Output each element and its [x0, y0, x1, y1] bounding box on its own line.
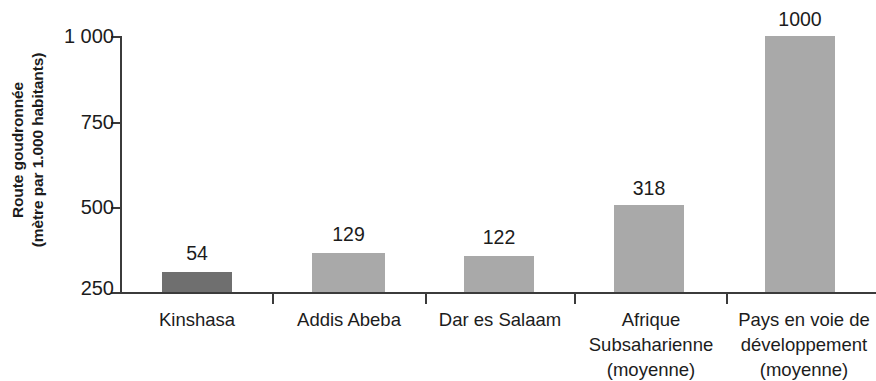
bar-chart-figure: Route goudronnée (mètre par 1.000 habita… [0, 0, 876, 381]
y-axis-title-line-2: (mètre par 1.000 habitants) [28, 53, 48, 248]
category-label-pays-en-voie-de-developpement-line-2: développement [729, 332, 876, 357]
bar-value-afrique-subsaharienne: 318 [614, 178, 684, 198]
x-tick-separator-2 [425, 293, 427, 304]
category-label-dar-es-salaam-line-1: Dar es Salaam [428, 307, 572, 332]
y-axis-title: Route goudronnée (mètre par 1.000 habita… [0, 0, 56, 300]
category-label-pays-en-voie-de-developpement-line-3: (moyenne) [729, 357, 876, 381]
category-label-afrique-subsaharienne-line-2: Subsaharienne [578, 332, 724, 357]
y-tick-label-250: 250 [81, 278, 114, 298]
y-tick-label-1000: 1 000 [64, 26, 114, 46]
y-axis-line [120, 36, 122, 294]
category-label-dar-es-salaam: Dar es Salaam [428, 307, 572, 332]
category-label-kinshasa-line-1: Kinshasa [127, 307, 267, 332]
plot-area: 1 000 750 500 250 54 129 122 318 1000 Ki… [120, 0, 876, 294]
category-label-pays-en-voie-de-developpement-line-1: Pays en voie de [729, 307, 876, 332]
category-label-afrique-subsaharienne: Afrique Subsaharienne (moyenne) [578, 307, 724, 381]
y-axis-title-line-1: Route goudronnée [8, 53, 28, 248]
x-tick-separator-1 [272, 293, 274, 304]
bar-kinshasa [162, 272, 232, 292]
category-label-addis-abeba: Addis Abeba [278, 307, 420, 332]
category-label-addis-abeba-line-1: Addis Abeba [278, 307, 420, 332]
category-label-afrique-subsaharienne-line-3: (moyenne) [578, 357, 724, 381]
category-label-kinshasa: Kinshasa [127, 307, 267, 332]
bar-value-kinshasa: 54 [162, 243, 232, 263]
category-label-pays-en-voie-de-developpement: Pays en voie de développement (moyenne) [729, 307, 876, 381]
y-tick-label-500: 500 [81, 197, 114, 217]
bar-value-dar-es-salaam: 122 [464, 227, 534, 247]
x-axis-line [120, 292, 876, 294]
bar-value-addis-abeba: 129 [312, 224, 385, 244]
y-tick-label-750: 750 [81, 112, 114, 132]
bar-value-pays-en-voie-de-developpement: 1000 [765, 9, 835, 29]
x-tick-separator-4 [726, 293, 728, 304]
bar-afrique-subsaharienne [614, 205, 684, 292]
x-tick-separator-3 [574, 293, 576, 304]
bar-addis-abeba [312, 253, 385, 292]
bar-pays-en-voie-de-developpement [765, 36, 835, 292]
category-label-afrique-subsaharienne-line-1: Afrique [578, 307, 724, 332]
bar-dar-es-salaam [464, 256, 534, 292]
